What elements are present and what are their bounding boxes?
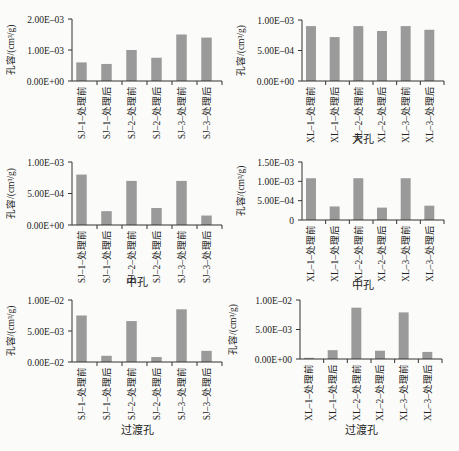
x-category-label: XL–1–处理前 xyxy=(305,225,316,282)
bar xyxy=(151,58,162,81)
x-category-label: XL–3–处理后 xyxy=(424,225,435,282)
bar xyxy=(76,316,87,363)
x-category-label: SJ–3–处理后 xyxy=(201,86,212,139)
y-tick-label: 1.00E–03 xyxy=(27,46,64,56)
y-axis-label: 孔容/(cm³/g) xyxy=(5,306,17,357)
bar xyxy=(151,357,162,362)
chart-caption: 中孔 xyxy=(126,276,148,288)
x-category-label: SJ–2–处理前 xyxy=(126,367,137,420)
bar xyxy=(306,26,316,81)
chart-sj-transition: 0.00E–025.00E–031.00E–02SJ–1–处理前SJ–1–处理后… xyxy=(5,296,222,437)
x-category-label: XL–2–处理前 xyxy=(351,364,362,421)
x-category-label: SJ–1–处理后 xyxy=(101,230,112,283)
y-tick-label: 1.50E–03 xyxy=(257,158,294,168)
x-category-label: SJ–1–处理后 xyxy=(101,86,112,139)
bar xyxy=(353,26,363,81)
x-category-label: SJ–2–处理后 xyxy=(151,230,162,283)
y-tick-label: 0.00E+00 xyxy=(27,221,65,231)
bar xyxy=(401,26,411,81)
y-axis-label: 孔容/(cm³/g) xyxy=(235,166,247,217)
x-category-label: XL–1–处理后 xyxy=(327,364,338,421)
x-category-label: SJ–1–处理前 xyxy=(76,230,87,283)
bar xyxy=(424,30,434,81)
bar xyxy=(201,351,212,362)
bar xyxy=(377,208,387,220)
x-category-label: SJ–3–处理后 xyxy=(201,367,212,420)
chart-xl-macro: 0.00E+005.00E–041.00E–03XL–1–处理前XL–1–处理后… xyxy=(235,16,444,146)
y-tick-label: 0.00E+00 xyxy=(255,355,293,365)
x-category-label: SJ–1–处理前 xyxy=(76,367,87,420)
bar xyxy=(176,35,187,82)
bar xyxy=(422,352,432,359)
bar xyxy=(101,211,112,225)
x-category-label: SJ–3–处理前 xyxy=(176,86,187,139)
x-category-label: XL–1–处理前 xyxy=(305,86,316,143)
bar xyxy=(306,178,316,220)
bar xyxy=(201,38,212,81)
chart-caption: 过渡孔 xyxy=(345,423,378,436)
bar xyxy=(126,321,137,362)
x-category-label: XL–3–处理前 xyxy=(400,86,411,143)
bar xyxy=(330,37,340,81)
y-tick-label: 5.00E–03 xyxy=(255,325,292,335)
bar xyxy=(330,206,340,220)
figure-canvas: 0.00E+001.00E–032.00E–03SJ–1–处理前SJ–1–处理后… xyxy=(0,0,459,451)
x-category-label: XL–3–处理后 xyxy=(424,86,435,143)
y-axis-label: 孔容/(cm³/g) xyxy=(235,25,247,76)
x-category-label: XL–3–处理前 xyxy=(400,225,411,282)
y-tick-label: 1.00E–02 xyxy=(255,296,292,306)
bar xyxy=(377,31,387,81)
y-tick-label: 5.00E–04 xyxy=(27,189,64,199)
y-tick-label: 1.00E–03 xyxy=(257,16,294,26)
bar xyxy=(176,181,187,225)
x-category-label: XL–2–处理后 xyxy=(374,364,385,421)
x-category-label: XL–2–处理后 xyxy=(376,86,387,143)
y-tick-label: 5.00E–03 xyxy=(27,327,64,337)
bar xyxy=(375,351,385,359)
x-category-label: XL–1–处理后 xyxy=(329,225,340,282)
y-tick-label: 1.00E–02 xyxy=(27,296,64,306)
bar xyxy=(151,208,162,225)
y-tick-label: 0 xyxy=(289,216,294,226)
y-tick-label: 0.00E–02 xyxy=(27,358,64,368)
x-category-label: SJ–2–处理前 xyxy=(126,86,137,139)
y-tick-label: 0.00E+00 xyxy=(27,77,65,87)
bar xyxy=(201,216,212,225)
y-axis-label: 孔容/(cm³/g) xyxy=(227,304,239,355)
x-category-label: SJ–3–处理前 xyxy=(176,367,187,420)
y-axis-label: 孔容/(cm³/g) xyxy=(5,168,17,219)
y-tick-label: 5.00E–04 xyxy=(257,46,294,56)
chart-sj-meso: 0.00E+005.00E–041.00E–03SJ–1–处理前SJ–1–处理后… xyxy=(5,158,222,289)
x-category-label: SJ–2–处理后 xyxy=(151,86,162,139)
bar xyxy=(353,178,363,220)
chart-sj-macro: 0.00E+001.00E–032.00E–03SJ–1–处理前SJ–1–处理后… xyxy=(5,15,222,140)
x-category-label: XL–2–处理后 xyxy=(376,225,387,282)
chart-xl-meso: 05.00E–041.00E–031.50E–03XL–1–处理前XL–1–处理… xyxy=(235,158,444,292)
bar xyxy=(401,178,411,220)
chart-caption: 中孔 xyxy=(352,279,374,291)
y-axis-label: 孔容/(cm³/g) xyxy=(5,25,17,76)
y-tick-label: 1.00E–03 xyxy=(27,158,64,168)
bar xyxy=(328,350,338,359)
chart-caption: 过渡孔 xyxy=(121,423,154,436)
bar xyxy=(101,64,112,81)
x-category-label: SJ–2–处理后 xyxy=(151,367,162,420)
y-tick-label: 2.00E–03 xyxy=(27,15,64,25)
x-category-label: SJ–3–处理后 xyxy=(201,230,212,283)
x-category-label: SJ–3–处理前 xyxy=(176,230,187,283)
x-category-label: SJ–1–处理前 xyxy=(76,86,87,139)
x-category-label: SJ–1–处理后 xyxy=(101,367,112,420)
x-category-label: XL–3–处理前 xyxy=(398,364,409,421)
x-category-label: XL–2–处理前 xyxy=(353,225,364,282)
bar xyxy=(126,50,137,81)
bar xyxy=(101,356,112,362)
bar xyxy=(351,308,361,359)
bar xyxy=(176,309,187,362)
x-category-label: XL–3–处理后 xyxy=(422,364,433,421)
chart-xl-transition: 0.00E+005.00E–031.00E–02XL–1–处理前XL–1–处理后… xyxy=(227,296,442,437)
bar xyxy=(76,175,87,225)
y-tick-label: 1.00E–03 xyxy=(257,177,294,187)
y-tick-label: 5.00E–04 xyxy=(257,196,294,206)
bar xyxy=(424,206,434,220)
x-category-label: XL–1–处理后 xyxy=(329,86,340,143)
